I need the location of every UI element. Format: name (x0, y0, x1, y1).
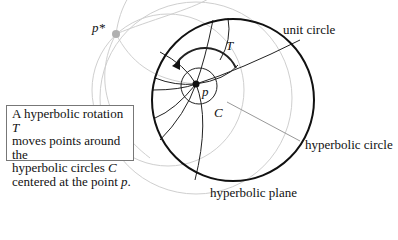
caption-line-4: centered at the point p. (12, 175, 133, 189)
label-C: C (214, 105, 223, 120)
label-p: p (201, 84, 209, 99)
label-p-star: p* (91, 20, 106, 35)
caption-box: A hyperbolic rotation T moves points aro… (6, 105, 134, 161)
label-T: T (226, 38, 234, 53)
point-p (193, 81, 200, 88)
label-hyperbolic-plane: hyperbolic plane (210, 185, 297, 200)
caption-line-2: moves points around the (12, 134, 133, 161)
caption-line-1: A hyperbolic rotation T (12, 107, 133, 134)
label-hyperbolic-circle: hyperbolic circle (305, 137, 393, 152)
label-unit-circle: unit circle (283, 22, 336, 37)
point-p-star (112, 30, 120, 38)
hyperbolic-circle-C (181, 68, 217, 104)
caption-line-3: hyperbolic circles C (12, 161, 133, 175)
geodesic-diagonal (160, 20, 213, 140)
